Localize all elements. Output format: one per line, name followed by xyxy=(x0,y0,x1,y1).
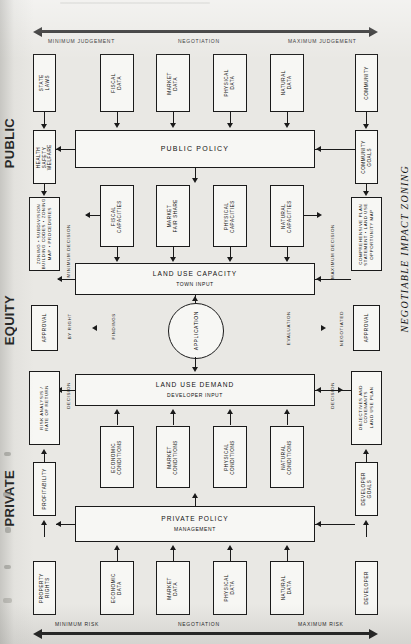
bottom-scale-bar xyxy=(42,632,370,635)
box-zoning-codes[interactable]: ZONING • SUBDIVISION BUILDING CODES • ZO… xyxy=(29,197,60,271)
bottom-scale-arrow-right xyxy=(369,629,378,639)
box-fiscal-data[interactable]: FISCAL DATA xyxy=(100,54,134,112)
arrow-down-icon xyxy=(284,257,290,262)
label-by-right: BY RIGHT xyxy=(67,313,72,339)
bar-land-use-demand-title: LAND USE DEMAND xyxy=(156,381,234,389)
section-label-private: PRIVATE xyxy=(2,470,17,527)
page-title: NEGOTIABLE IMPACT ZONING xyxy=(399,165,410,333)
bar-public-policy[interactable]: PUBLIC POLICY xyxy=(75,130,315,168)
arrow-down-icon xyxy=(227,257,233,262)
box-profitability[interactable]: PROFITABILITY xyxy=(33,462,56,516)
connector xyxy=(230,550,231,561)
arrow-down-icon xyxy=(192,178,198,183)
box-fiscal-capacities-label: FISCAL CAPACITIES xyxy=(111,200,122,233)
arrow-down-icon xyxy=(170,123,176,128)
circle-application[interactable]: APPLICATION xyxy=(168,303,224,359)
box-market-conditions[interactable]: MARKET CONDITIONS xyxy=(156,426,190,488)
box-developer[interactable]: DEVELOPER xyxy=(355,561,378,615)
box-natural-conditions[interactable]: NATURAL CONDITIONS xyxy=(270,426,304,488)
box-economic-conditions[interactable]: ECONOMIC CONDITIONS xyxy=(100,426,134,488)
connector xyxy=(304,215,318,216)
box-approval-right[interactable]: APPROVAL xyxy=(353,305,380,351)
box-physical-data-private[interactable]: PHYSICAL DATA xyxy=(213,561,247,615)
box-physical-data[interactable]: PHYSICAL DATA xyxy=(213,54,247,112)
box-approval-right-label: APPROVAL xyxy=(364,313,370,342)
bar-private-policy-title: PRIVATE POLICY xyxy=(161,515,228,523)
bar-land-use-capacity-subtitle: TOWN INPUT xyxy=(176,281,214,287)
connector xyxy=(230,414,231,425)
box-physical-conditions[interactable]: PHYSICAL CONDITIONS xyxy=(213,426,247,488)
arrow-left-icon xyxy=(85,212,90,218)
box-objectives-covenants-label: OBJECTIVES AND COVENANTS LAND USE PLAN xyxy=(358,385,374,430)
box-risk-analysis-label: RISK ANALYSIS / RATE OF RETURN xyxy=(39,385,50,431)
arrow-right-icon xyxy=(338,387,343,393)
label-minimum-decision: MINIMUM DECISION xyxy=(66,224,71,277)
arrow-down-icon xyxy=(114,257,120,262)
arrow-down-icon xyxy=(170,257,176,262)
box-economic-data[interactable]: ECONOMIC DATA xyxy=(100,561,134,615)
box-fiscal-capacities[interactable]: FISCAL CAPACITIES xyxy=(100,185,134,247)
bar-land-use-capacity[interactable]: LAND USE CAPACITY TOWN INPUT xyxy=(75,263,315,295)
scan-artifact xyxy=(4,565,11,569)
section-label-equity: EQUITY xyxy=(2,295,17,345)
box-state-laws[interactable]: STATE LAWS xyxy=(33,54,56,112)
label-decision-right: DECISION xyxy=(330,382,335,409)
box-property-rights[interactable]: PROPERTY RIGHTS xyxy=(33,561,56,615)
box-profitability-label: PROFITABILITY xyxy=(42,468,48,509)
label-evaluation: EVALUATION xyxy=(286,311,291,345)
box-economic-data-label: ECONOMIC DATA xyxy=(111,573,122,603)
box-approval-left[interactable]: APPROVAL xyxy=(31,305,58,351)
box-market-data-private[interactable]: MARKET DATA xyxy=(156,561,190,615)
arrow-left-icon xyxy=(56,521,61,527)
scan-artifact xyxy=(4,452,11,456)
box-community-goals[interactable]: COMMUNITY GOALS xyxy=(355,130,378,184)
scan-artifact xyxy=(5,527,11,533)
connector xyxy=(44,525,45,537)
connector xyxy=(315,524,355,525)
top-scale-label-right: MAXIMUM JUDGEMENT xyxy=(288,38,357,44)
arrow-left-icon xyxy=(316,146,321,152)
arrow-down-icon xyxy=(284,123,290,128)
box-risk-analysis[interactable]: RISK ANALYSIS / RATE OF RETURN xyxy=(29,371,60,445)
box-approval-left-label: APPROVAL xyxy=(42,313,48,342)
box-community[interactable]: COMMUNITY xyxy=(355,54,378,112)
box-developer-goals[interactable]: DEVELOPER GOALS xyxy=(355,462,378,516)
box-physical-data-private-label: PHYSICAL DATA xyxy=(224,574,235,602)
label-decision-left: DECISION xyxy=(66,382,71,409)
top-scale-arrow-left xyxy=(33,27,42,37)
arrow-right-icon xyxy=(317,212,322,218)
bottom-scale-label-right: MAXIMUM RISK xyxy=(298,621,344,627)
box-physical-conditions-label: PHYSICAL CONDITIONS xyxy=(224,440,235,475)
bar-land-use-demand[interactable]: LAND USE DEMAND DEVELOPER INPUT xyxy=(75,374,315,406)
box-natural-data-private-label: NATURAL DATA xyxy=(281,575,292,600)
box-comprehensive-plan[interactable]: COMPREHENSIVE PLAN STATEMENT • LAND USE … xyxy=(351,197,382,271)
arrow-down-icon xyxy=(114,123,120,128)
box-economic-conditions-label: ECONOMIC CONDITIONS xyxy=(111,440,122,475)
box-natural-conditions-label: NATURAL CONDITIONS xyxy=(281,440,292,475)
box-market-fair-share[interactable]: MARKET FAIR SHARE xyxy=(156,185,190,247)
bar-public-policy-label: PUBLIC POLICY xyxy=(161,145,230,154)
label-maximum-decision: MAXIMUM DECISION xyxy=(330,224,335,279)
bottom-scale-arrow-left xyxy=(33,629,42,639)
box-objectives-covenants[interactable]: OBJECTIVES AND COVENANTS LAND USE PLAN xyxy=(351,371,382,445)
box-natural-capacities[interactable]: NATURAL CAPACITIES xyxy=(270,185,304,247)
box-physical-capacities[interactable]: PHYSICAL CAPACITIES xyxy=(213,185,247,247)
connector xyxy=(117,550,118,561)
box-natural-data[interactable]: NATURAL DATA xyxy=(270,54,304,112)
connector xyxy=(173,550,174,561)
box-health-safety-welfare[interactable]: HEALTH SAFETY WELFARE xyxy=(33,130,56,184)
box-fiscal-data-label: FISCAL DATA xyxy=(111,73,122,93)
label-negotiated: NEGOTIATED xyxy=(339,311,344,346)
box-natural-data-private[interactable]: NATURAL DATA xyxy=(270,561,304,615)
box-natural-capacities-label: NATURAL CAPACITIES xyxy=(281,200,292,233)
box-market-fair-share-label: MARKET FAIR SHARE xyxy=(167,199,178,232)
box-zoning-codes-label: ZONING • SUBDIVISION BUILDING CODES • ZO… xyxy=(36,198,52,269)
box-developer-label: DEVELOPER xyxy=(364,571,370,604)
arrow-left-icon xyxy=(316,387,321,393)
arrow-down-icon xyxy=(41,124,47,129)
bar-private-policy[interactable]: PRIVATE POLICY MANAGEMENT xyxy=(75,506,315,542)
box-market-data[interactable]: MARKET DATA xyxy=(156,54,190,112)
arrow-down-icon xyxy=(41,191,47,196)
top-scale-label-left: MINIMUM JUDGEMENT xyxy=(48,38,115,44)
top-scale-arrow-right xyxy=(369,27,378,37)
